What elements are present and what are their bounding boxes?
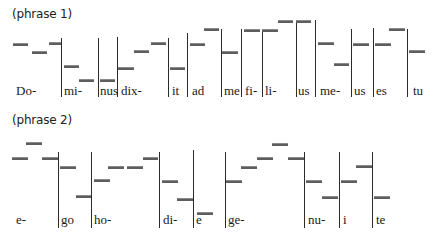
pitch-note [94, 179, 110, 182]
pitch-note [170, 67, 185, 70]
lyric-syllable: go [61, 213, 74, 226]
pitch-note [226, 180, 242, 183]
pitch-note [262, 29, 278, 32]
lyric-syllable: e- [16, 213, 26, 226]
pitch-note [162, 180, 178, 183]
pitch-note [79, 79, 94, 82]
pitch-note [288, 157, 304, 160]
pitch-note [353, 43, 369, 46]
pitch-note [32, 51, 47, 54]
pitch-note [356, 165, 372, 168]
pitch-note [42, 157, 58, 160]
syllable-divider [315, 20, 316, 97]
lyric-syllable: Do- [16, 84, 36, 97]
pitch-note [108, 166, 124, 169]
lyric-syllable: nus [100, 84, 118, 97]
pitch-note [318, 42, 334, 45]
syllable-divider [262, 29, 263, 97]
pitch-note [127, 166, 143, 169]
lyric-syllable: tu [413, 84, 423, 97]
lyric-syllable: mi- [64, 84, 82, 97]
lyric-syllable: dix- [121, 84, 142, 97]
lyric-syllable: me- [320, 84, 340, 97]
syllable-divider [372, 152, 373, 228]
syllable-divider [407, 29, 408, 97]
pitch-note [306, 180, 322, 183]
lyric-syllable: fi- [245, 84, 257, 97]
pitch-note [296, 20, 311, 23]
pitch-note [26, 142, 42, 145]
pitch-contour-diagram: (phrase 1) Do-mi-nusdix-itadmefi-li-usme… [0, 0, 436, 244]
pitch-note [322, 196, 338, 199]
lyric-syllable: us [298, 84, 310, 97]
lyric-syllable: ho- [94, 213, 111, 226]
lyric-syllable: e [196, 213, 202, 226]
syllable-divider [168, 38, 169, 97]
pitch-note [409, 50, 425, 53]
pitch-note [60, 166, 76, 169]
phrase-title: (phrase 2) [12, 113, 72, 127]
phrase-title: (phrase 1) [12, 7, 72, 21]
lyric-syllable: li- [265, 84, 277, 97]
pitch-note [134, 50, 149, 53]
syllable-divider [373, 28, 374, 97]
pitch-note [222, 51, 238, 54]
pitch-note [100, 79, 115, 82]
pitch-note [375, 43, 391, 46]
syllable-divider [159, 152, 160, 228]
syllable-divider [339, 152, 340, 228]
syllable-divider [193, 150, 194, 228]
pitch-note [334, 63, 349, 66]
pitch-note [341, 180, 357, 183]
pitch-note [272, 143, 288, 146]
pitch-note [278, 20, 293, 23]
syllable-divider [351, 29, 352, 97]
syllable-divider [61, 38, 62, 97]
pitch-note [151, 42, 166, 45]
lyric-syllable: di- [163, 213, 177, 226]
syllable-divider [98, 38, 99, 97]
lyric-syllable: es [376, 84, 387, 97]
pitch-note [374, 196, 390, 199]
pitch-note [64, 65, 79, 68]
syllable-divider [241, 29, 242, 97]
pitch-note [204, 28, 219, 31]
lyric-syllable: ge- [228, 213, 245, 226]
pitch-note [257, 157, 273, 160]
pitch-note [49, 42, 61, 45]
lyric-syllable: te [376, 213, 385, 226]
lyric-syllable: it [172, 84, 179, 97]
syllable-divider [187, 33, 188, 97]
pitch-note [143, 157, 158, 160]
pitch-note [389, 28, 405, 31]
lyric-syllable: nu- [308, 213, 325, 226]
lyric-syllable: me [224, 84, 240, 97]
pitch-note [13, 43, 28, 46]
pitch-note [244, 29, 260, 32]
lyric-syllable: i [343, 213, 347, 226]
pitch-note [118, 67, 134, 70]
syllable-divider [304, 152, 305, 228]
pitch-note [190, 43, 205, 46]
pitch-note [76, 195, 91, 198]
pitch-note [241, 166, 257, 169]
syllable-divider [296, 20, 297, 97]
pitch-note [12, 157, 28, 160]
syllable-divider [58, 152, 59, 228]
lyric-syllable: ad [192, 84, 204, 97]
lyric-syllable: us [354, 84, 366, 97]
pitch-note [177, 198, 193, 201]
syllable-divider [221, 29, 222, 97]
syllable-divider [225, 152, 226, 228]
syllable-divider [91, 152, 92, 228]
